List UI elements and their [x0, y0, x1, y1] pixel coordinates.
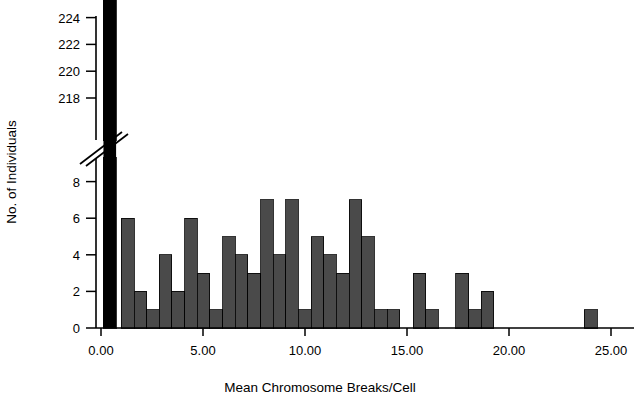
y-tick-label-upper: 218: [58, 91, 80, 106]
histogram-bar-clipped: [103, 0, 116, 328]
histogram-bar: [147, 310, 160, 328]
x-tick-label: 20.00: [493, 343, 526, 358]
histogram-bar: [197, 273, 210, 328]
x-tick-label: 15.00: [391, 343, 424, 358]
histogram-bar: [210, 310, 223, 328]
histogram-figure: 0.005.0010.0015.0020.0025.00024682182202…: [0, 0, 640, 405]
y-tick-label-upper: 224: [58, 11, 80, 26]
histogram-bar: [248, 273, 261, 328]
y-tick-label: 8: [73, 175, 80, 190]
histogram-bar: [261, 200, 274, 328]
histogram-bar: [273, 255, 286, 328]
histogram-bar: [286, 200, 299, 328]
histogram-bar: [362, 237, 375, 329]
x-tick-label: 5.00: [190, 343, 215, 358]
histogram-bar: [121, 218, 134, 328]
histogram-bar: [185, 218, 198, 328]
histogram-bar: [349, 200, 362, 328]
y-tick-label: 6: [73, 211, 80, 226]
x-axis-label: Mean Chromosome Breaks/Cell: [224, 380, 415, 395]
histogram-bar: [374, 310, 387, 328]
y-tick-label: 2: [73, 284, 80, 299]
histogram-bar: [159, 255, 172, 328]
histogram-bar: [387, 310, 400, 328]
y-tick-label: 0: [73, 321, 80, 336]
y-tick-label-upper: 220: [58, 64, 80, 79]
y-axis-label: No. of Individuals: [4, 120, 19, 224]
histogram-bar: [311, 237, 324, 329]
histogram-bar: [481, 291, 494, 328]
histogram-bar: [426, 310, 439, 328]
y-tick-label: 4: [73, 248, 80, 263]
histogram-bar: [134, 291, 147, 328]
x-tick-label: 0.00: [88, 343, 113, 358]
histogram-bar: [413, 273, 426, 328]
x-tick-label: 25.00: [595, 343, 628, 358]
histogram-bar: [223, 237, 236, 329]
histogram-bar: [456, 273, 469, 328]
histogram-bar: [584, 310, 597, 328]
histogram-bar: [469, 310, 482, 328]
y-tick-label-upper: 222: [58, 37, 80, 52]
histogram-bar: [298, 310, 311, 328]
histogram-bar: [172, 291, 185, 328]
histogram-bar: [324, 255, 337, 328]
x-tick-label: 10.00: [289, 343, 322, 358]
histogram-bar: [336, 273, 349, 328]
histogram-bar: [235, 255, 248, 328]
